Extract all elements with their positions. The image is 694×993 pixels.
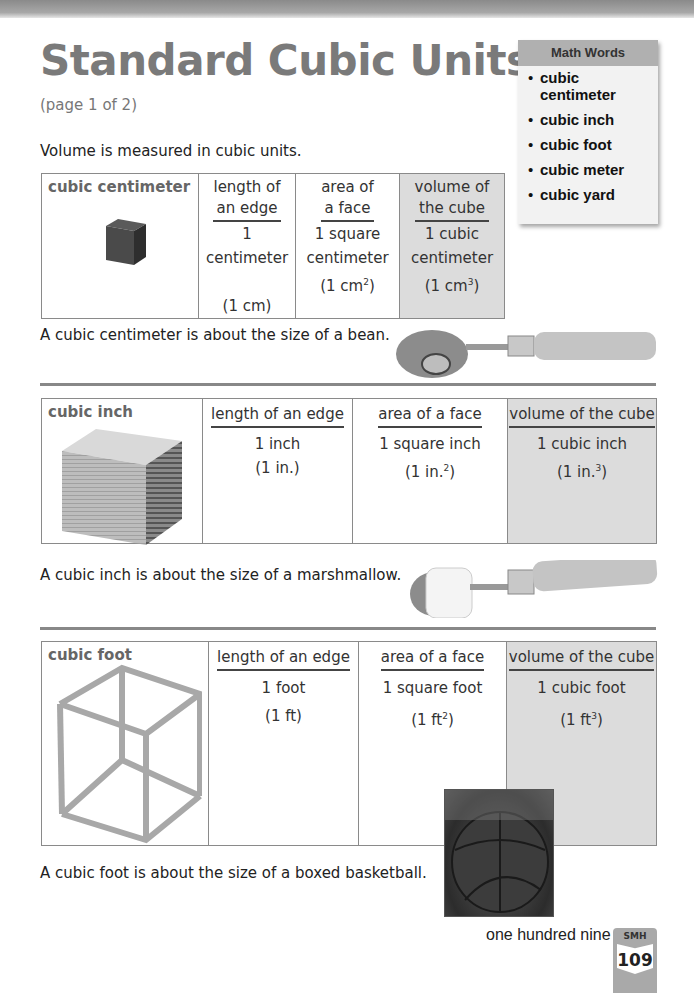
math-word-item: cubic meter xyxy=(528,161,658,178)
value-text: 1 cubic xyxy=(400,222,504,246)
abbreviation: (1 ft) xyxy=(209,704,358,728)
unit-name-cell: cubic centimeter xyxy=(42,174,199,319)
edge-length-cell: length of an edge 1 inch (1 in.) xyxy=(203,399,353,544)
caption-text: A cubic inch is about the size of a mars… xyxy=(40,566,401,584)
cube-volume-cell: volume of the cube 1 cubic inch (1 in.3) xyxy=(508,399,657,544)
boxed-basketball-image xyxy=(444,789,554,917)
cubic-centimeter-table: cubic centimeter length ofan edge 1 cent… xyxy=(41,173,505,319)
abbreviation: (1 cm2) xyxy=(296,270,399,298)
value-text: centimeter xyxy=(296,246,399,270)
column-header: area of a face xyxy=(381,647,484,671)
column-header: volume of the cube xyxy=(509,647,654,671)
face-area-cell: area ofa face 1 square centimeter (1 cm2… xyxy=(296,174,400,319)
value-text: centimeter xyxy=(400,246,504,270)
spoon-marshmallow-image xyxy=(408,560,658,618)
unit-name-cell: cubic inch xyxy=(42,399,203,544)
column-header: area of a face xyxy=(378,404,481,428)
column-header: area of xyxy=(321,178,374,196)
math-word-item: cubic yard xyxy=(528,186,658,203)
edge-length-cell: length of an edge 1 foot (1 ft) xyxy=(209,642,359,846)
value-text: 1 foot xyxy=(209,676,358,700)
value-text: 1 inch xyxy=(203,432,352,456)
cubic-inch-table: cubic inch length of an edge 1 inch (1 i… xyxy=(41,398,657,544)
unit-name: cubic inch xyxy=(48,403,133,421)
unit-name-cell: cubic foot xyxy=(42,642,209,846)
cube-volume-cell: volume ofthe cube 1 cubic centimeter (1 … xyxy=(400,174,505,319)
value-text: 1 cubic foot xyxy=(507,676,656,700)
frame-cube-icon xyxy=(52,664,202,844)
abbreviation: (1 ft3) xyxy=(507,704,656,732)
math-words-heading: Math Words xyxy=(518,40,658,66)
intro-text: Volume is measured in cubic units. xyxy=(40,142,302,160)
math-word-item: cubic centimeter xyxy=(528,69,638,103)
math-words-box: Math Words cubic centimeter cubic inch c… xyxy=(518,40,658,224)
page-subtitle: (page 1 of 2) xyxy=(40,96,137,114)
section-divider xyxy=(40,627,656,630)
abbreviation: (1 ft2) xyxy=(359,704,506,732)
page-title: Standard Cubic Units xyxy=(40,36,531,85)
abbreviation: (1 in.2) xyxy=(353,456,507,484)
column-header: length of an edge xyxy=(211,404,344,428)
column-header: length of an edge xyxy=(217,647,350,671)
caption-text: A cubic foot is about the size of a boxe… xyxy=(40,864,427,882)
column-header: volume of xyxy=(415,178,490,196)
abbreviation: (1 in.3) xyxy=(508,456,656,484)
value-text: 1 square foot xyxy=(359,676,506,700)
caption-text: A cubic centimeter is about the size of … xyxy=(40,326,390,344)
spacer xyxy=(199,270,295,294)
abbreviation: (1 in.) xyxy=(203,456,352,480)
section-divider xyxy=(40,383,656,386)
column-header: a face xyxy=(325,199,371,217)
page-number-words: one hundred nine xyxy=(486,926,611,944)
page-number-badge: SMH 109 xyxy=(613,928,657,993)
column-header: an edge xyxy=(217,199,278,217)
column-header: volume of the cube xyxy=(509,404,654,428)
edge-length-cell: length ofan edge 1 centimeter (1 cm) xyxy=(199,174,296,319)
face-area-cell: area of a face 1 square inch (1 in.2) xyxy=(353,399,508,544)
small-cube-icon xyxy=(102,218,148,266)
abbreviation: (1 cm3) xyxy=(400,270,504,298)
value-text: 1 square inch xyxy=(353,432,507,456)
value-text: 1 square xyxy=(296,222,399,246)
spoon-bean-image xyxy=(396,326,658,382)
top-header-band xyxy=(0,0,694,18)
cubic-foot-table: cubic foot length of an edge 1 foot (1 f… xyxy=(41,641,657,846)
value-text: 1 cubic inch xyxy=(508,432,656,456)
unit-name: cubic foot xyxy=(48,646,132,664)
wooden-cube-icon xyxy=(62,427,182,545)
value-text: 1 centimeter xyxy=(199,222,295,270)
column-header: length of xyxy=(213,178,280,196)
badge-label: SMH xyxy=(613,928,657,941)
math-word-item: cubic foot xyxy=(528,136,658,153)
column-header: the cube xyxy=(419,199,485,217)
math-word-item: cubic inch xyxy=(528,111,658,128)
unit-name: cubic centimeter xyxy=(48,178,190,196)
page-number: 109 xyxy=(617,944,653,974)
abbreviation: (1 cm) xyxy=(199,294,295,318)
